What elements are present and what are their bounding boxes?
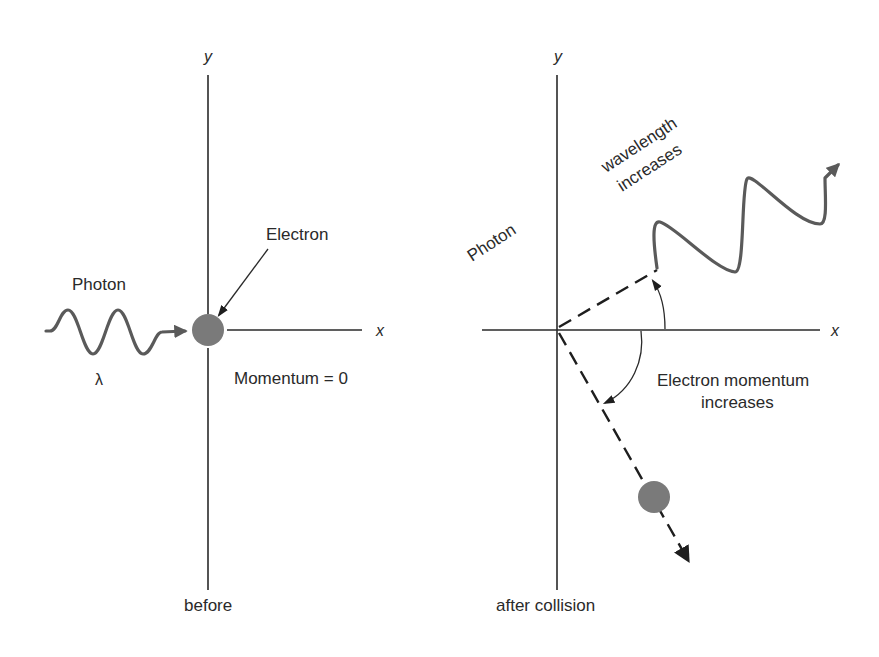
electron-angle-arc-icon (605, 331, 642, 403)
electron-label: Electron (266, 225, 328, 244)
photon-angle-arc-icon (653, 281, 665, 329)
momentum-zero-label: Momentum = 0 (234, 369, 348, 388)
scattered-photon-direction-line (559, 270, 657, 327)
electron-momentum-label-line2: increases (701, 393, 774, 412)
after-photon-label: Photon (464, 220, 520, 265)
electron-pointer-arrow-icon (219, 249, 268, 315)
wavelength-lambda-symbol: λ (95, 371, 103, 388)
after-panel: y x Photon wavelength increases Electron… (464, 48, 840, 615)
before-y-axis-label: y (203, 48, 213, 65)
after-caption: after collision (496, 596, 595, 615)
before-photon-label: Photon (72, 275, 126, 294)
before-x-axis-label: x (375, 322, 385, 339)
electron-at-rest-icon (192, 314, 224, 346)
after-y-axis-label: y (553, 48, 563, 65)
scattered-photon-wave-icon (654, 165, 838, 272)
before-panel: y x Photon λ Electron Momentum = 0 befor… (46, 48, 385, 615)
after-x-axis-label: x (830, 322, 840, 339)
incoming-photon-wave-icon (46, 310, 185, 354)
recoil-electron-direction-line (559, 333, 688, 560)
before-caption: before (184, 596, 232, 615)
electron-momentum-label-line1: Electron momentum (657, 371, 809, 390)
recoil-electron-icon (638, 481, 670, 513)
compton-scattering-diagram: y x Photon λ Electron Momentum = 0 befor… (0, 0, 879, 657)
